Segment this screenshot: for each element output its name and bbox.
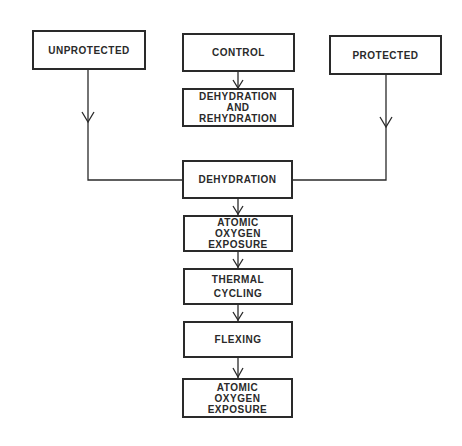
box-label-line: EXPOSURE xyxy=(208,404,268,415)
box-label-line: OXYGEN xyxy=(215,393,261,404)
flexing-box: FLEXING xyxy=(183,321,293,358)
box-label-line: THERMAL xyxy=(212,274,264,285)
box-label-line: ATOMIC xyxy=(217,217,259,228)
box-label: DEHYDRATION xyxy=(198,174,276,185)
box-label-line: REHYDRATION xyxy=(199,113,277,124)
box-label: UNPROTECTED xyxy=(48,45,130,56)
box-label: FLEXING xyxy=(215,334,262,345)
box-label-line: ATOMIC xyxy=(217,382,259,393)
dehydration-box: DEHYDRATION xyxy=(182,160,293,199)
protected-box: PROTECTED xyxy=(329,35,442,75)
box-label-line: CYCLING xyxy=(214,288,263,299)
connector-unprotected-to-dehydration xyxy=(88,69,182,180)
box-label: CONTROL xyxy=(212,47,265,58)
box-label-line: EXPOSURE xyxy=(208,239,268,250)
box-label-line: OXYGEN xyxy=(215,228,261,239)
atomic-oxygen-exposure-box-2: ATOMIC OXYGEN EXPOSURE xyxy=(182,378,293,418)
box-label-line: DEHYDRATION xyxy=(199,91,277,102)
box-label-line: AND xyxy=(226,102,249,113)
thermal-cycling-box: THERMAL CYCLING xyxy=(183,268,293,305)
dehydration-rehydration-box: DEHYDRATION AND REHYDRATION xyxy=(182,88,294,127)
box-label: PROTECTED xyxy=(352,50,418,61)
control-box: CONTROL xyxy=(182,33,295,72)
atomic-oxygen-exposure-box-1: ATOMIC OXYGEN EXPOSURE xyxy=(183,215,293,252)
unprotected-box: UNPROTECTED xyxy=(32,30,146,70)
connector-protected-to-dehydration xyxy=(293,74,386,180)
flowchart: UNPROTECTED CONTROL PROTECTED DEHYDRATIO… xyxy=(0,0,462,446)
